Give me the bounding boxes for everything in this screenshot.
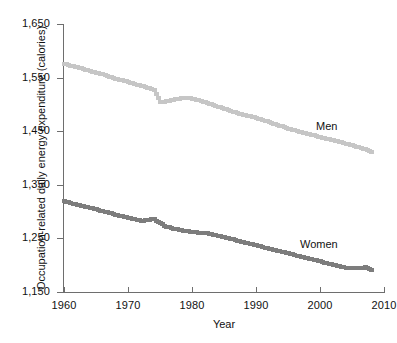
data-point bbox=[135, 218, 140, 222]
data-point bbox=[327, 137, 332, 141]
data-point bbox=[243, 241, 248, 245]
data-point bbox=[213, 104, 218, 108]
data-point bbox=[307, 132, 312, 136]
data-point bbox=[354, 145, 359, 149]
data-point bbox=[369, 268, 374, 272]
data-point bbox=[265, 246, 270, 250]
data-point bbox=[263, 119, 268, 123]
data-point bbox=[77, 203, 82, 207]
data-point bbox=[137, 83, 142, 87]
data-point bbox=[324, 261, 329, 265]
data-point bbox=[115, 77, 120, 81]
x-tick-label: 1960 bbox=[44, 300, 84, 311]
data-point bbox=[188, 230, 193, 234]
chart-container: 1,1501,2501,3501,4501,5501,650 196019701… bbox=[0, 0, 397, 343]
data-point bbox=[175, 227, 180, 231]
data-point bbox=[292, 128, 297, 132]
data-point bbox=[224, 236, 229, 240]
data-point bbox=[92, 207, 97, 211]
data-point bbox=[171, 98, 176, 102]
data-point bbox=[260, 245, 265, 249]
data-point bbox=[218, 105, 223, 109]
data-point bbox=[177, 97, 182, 101]
data-point bbox=[233, 110, 238, 114]
data-point bbox=[199, 99, 204, 103]
data-point bbox=[356, 145, 361, 149]
data-point bbox=[267, 120, 272, 124]
data-point bbox=[113, 213, 118, 217]
data-point bbox=[169, 98, 174, 102]
data-point bbox=[149, 87, 154, 91]
data-point bbox=[96, 71, 101, 75]
data-point bbox=[81, 67, 86, 71]
x-tick-label: 1980 bbox=[172, 300, 212, 311]
data-point bbox=[250, 115, 255, 119]
data-point bbox=[132, 82, 137, 86]
data-point bbox=[117, 214, 122, 218]
data-point bbox=[105, 74, 110, 78]
data-point bbox=[79, 66, 84, 70]
data-point bbox=[359, 266, 364, 270]
data-point bbox=[201, 231, 206, 235]
data-point bbox=[350, 143, 355, 147]
data-point bbox=[64, 200, 69, 204]
data-point bbox=[105, 210, 110, 214]
data-point bbox=[248, 114, 253, 118]
data-point bbox=[132, 217, 137, 221]
data-point bbox=[318, 259, 323, 263]
data-point bbox=[327, 262, 332, 266]
data-point bbox=[299, 255, 304, 259]
data-point bbox=[363, 147, 368, 151]
data-point bbox=[120, 214, 125, 218]
data-point bbox=[369, 150, 374, 154]
data-point bbox=[216, 105, 221, 109]
data-point bbox=[164, 225, 169, 229]
data-point bbox=[260, 118, 265, 122]
data-point bbox=[177, 228, 182, 232]
y-tick-mark bbox=[57, 78, 63, 79]
data-point bbox=[107, 211, 112, 215]
data-point bbox=[301, 131, 306, 135]
y-axis-line bbox=[63, 24, 64, 293]
data-point bbox=[277, 124, 282, 128]
data-point bbox=[248, 242, 253, 246]
data-point bbox=[348, 266, 353, 270]
data-point bbox=[309, 133, 314, 137]
data-point bbox=[303, 256, 308, 260]
data-point bbox=[126, 80, 131, 84]
y-axis-title: Occupation-related daily energy expendit… bbox=[35, 13, 47, 303]
data-point bbox=[282, 125, 287, 129]
data-point bbox=[352, 266, 357, 270]
data-point bbox=[122, 79, 127, 83]
data-point bbox=[126, 216, 131, 220]
data-point bbox=[282, 250, 287, 254]
data-point bbox=[284, 251, 289, 255]
data-point bbox=[224, 107, 229, 111]
data-point bbox=[228, 237, 233, 241]
data-point bbox=[181, 229, 186, 233]
data-point bbox=[322, 261, 327, 265]
data-point bbox=[73, 202, 78, 206]
data-point bbox=[145, 86, 150, 90]
data-point bbox=[280, 250, 285, 254]
data-point bbox=[367, 267, 372, 271]
data-point bbox=[290, 128, 295, 132]
data-point bbox=[258, 244, 263, 248]
data-point bbox=[235, 111, 240, 115]
data-point bbox=[109, 75, 114, 79]
data-point bbox=[85, 205, 90, 209]
data-point bbox=[297, 130, 302, 134]
data-point bbox=[124, 79, 129, 83]
data-point bbox=[337, 140, 342, 144]
data-point bbox=[286, 251, 291, 255]
data-point bbox=[254, 116, 259, 120]
data-point bbox=[179, 96, 184, 100]
x-axis-title: Year bbox=[184, 318, 264, 330]
data-point bbox=[103, 73, 108, 77]
data-point bbox=[115, 213, 120, 217]
data-point bbox=[318, 135, 323, 139]
data-point bbox=[320, 136, 325, 140]
data-point bbox=[130, 81, 135, 85]
data-point bbox=[280, 124, 285, 128]
data-point bbox=[303, 131, 308, 135]
